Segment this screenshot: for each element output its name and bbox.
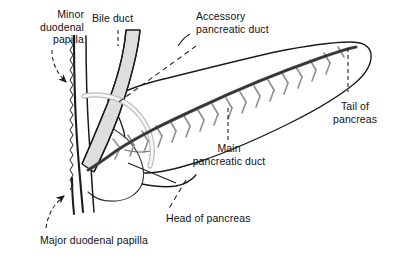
leader-accessory-pancreatic-duct-hook	[178, 34, 190, 46]
label-main-pancreatic-duct: Main pancreatic duct	[182, 142, 276, 167]
label-tail-of-pancreas: Tail of pancreas	[324, 100, 386, 125]
leader-major-duodenal-papilla	[46, 196, 64, 228]
leader-minor-duodenal-papilla	[52, 50, 66, 82]
pancreas-diagram: Minor duodenal papilla Bile duct Accesso…	[0, 0, 397, 265]
label-minor-duodenal-papilla: Minor duodenal papilla	[4, 8, 84, 46]
label-accessory-pancreatic-duct: Accessory pancreatic duct	[196, 10, 300, 35]
label-bile-duct: Bile duct	[92, 12, 164, 25]
label-head-of-pancreas: Head of pancreas	[166, 212, 286, 225]
label-major-duodenal-papilla: Major duodenal papilla	[40, 234, 190, 247]
